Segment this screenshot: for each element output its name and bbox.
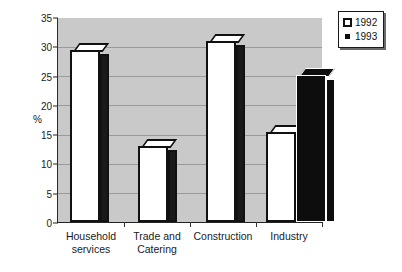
y-tick-label-10: 10 [41, 159, 52, 170]
bar-front-face [70, 50, 100, 222]
filled-square-marker-icon [343, 32, 352, 41]
y-tick-label-35: 35 [41, 13, 52, 24]
category-label-line: Construction [190, 230, 256, 243]
category-label-construction: Construction [190, 230, 256, 243]
legend-item-1993: 1993 [343, 29, 379, 43]
bar-industry-1992 [266, 132, 296, 222]
bar-front-face [206, 41, 236, 222]
y-tick-label-0: 0 [46, 218, 52, 229]
legend-label: 1993 [355, 31, 377, 42]
bar-chart: % 35 30 25 20 15 10 5 0 [0, 0, 402, 272]
y-tick-label-20: 20 [41, 100, 52, 111]
category-label-line: Catering [124, 243, 190, 256]
y-axis: 35 30 25 20 15 10 5 0 [30, 12, 58, 226]
category-tick [124, 222, 125, 227]
legend-item-1992: 1992 [343, 15, 379, 29]
bar-front-face [138, 146, 168, 222]
bar-industry-1993 [296, 75, 326, 223]
legend-label: 1992 [355, 17, 377, 28]
category-label-line: services [58, 243, 124, 256]
category-label-household-services: Household services [58, 230, 124, 256]
category-label-line: Household [58, 230, 124, 243]
y-tick-label-30: 30 [41, 42, 52, 53]
bar-side-face [100, 54, 109, 222]
bar-trade-and-catering-1992 [138, 146, 168, 222]
category-tick [190, 222, 191, 227]
category-label-line: Trade and [124, 230, 190, 243]
bar-side-face [168, 150, 177, 222]
open-square-marker-icon [343, 18, 352, 27]
y-tick-label-25: 25 [41, 71, 52, 82]
bar-construction-1992 [206, 41, 236, 222]
bar-side-face [236, 45, 245, 222]
bar-front-face [296, 75, 326, 223]
category-label-industry: Industry [256, 230, 322, 243]
bar-household-services-1992 [70, 50, 100, 222]
category-tick [322, 222, 323, 227]
plot-area [58, 18, 322, 222]
category-label-trade-and-catering: Trade and Catering [124, 230, 190, 256]
bar-side-face [326, 79, 335, 223]
category-tick [256, 222, 257, 227]
y-tick-label-15: 15 [41, 130, 52, 141]
bar-front-face [266, 132, 296, 222]
y-tick-label-5: 5 [46, 188, 52, 199]
legend: 1992 1993 [338, 11, 384, 48]
category-label-line: Industry [256, 230, 322, 243]
